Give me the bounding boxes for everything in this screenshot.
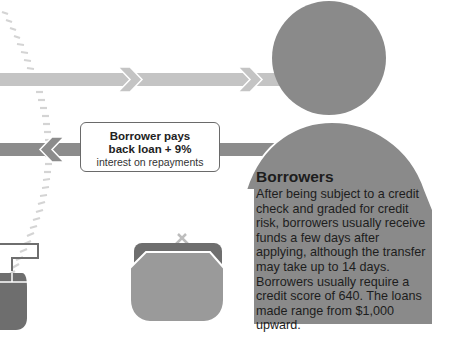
- repayment-note-line3: interest on repayments: [81, 156, 219, 169]
- borrowers-description: After being subject to a credit check an…: [256, 187, 426, 333]
- repayment-note-box: Borrower pays back loan + 9% interest on…: [80, 122, 220, 172]
- repayment-note-line2: back loan + 9%: [81, 143, 219, 156]
- repayment-note-line1: Borrower pays: [81, 130, 219, 143]
- computer-mouse-icon: [0, 244, 38, 330]
- borrowers-info: Borrowers After being subject to a credi…: [256, 168, 426, 333]
- coin-purse-icon: [130, 234, 224, 322]
- arrow-band-to-borrower: [0, 67, 300, 92]
- borrowers-title: Borrowers: [256, 168, 426, 185]
